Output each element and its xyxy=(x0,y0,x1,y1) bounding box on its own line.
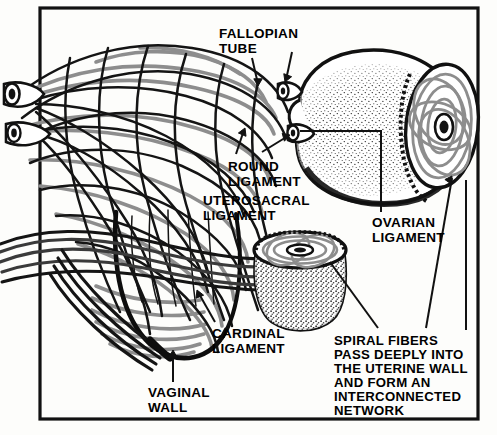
label-round-ligament: ROUND LIGAMENT xyxy=(228,160,301,189)
leader-cardinal xyxy=(196,290,215,322)
leader-fallopian-right xyxy=(284,52,292,82)
label-spiral-fibers-note: SPIRAL FIBERS PASS DEEPLY INTO THE UTERI… xyxy=(334,334,468,418)
label-fallopian-tube: FALLOPIAN TUBE xyxy=(219,27,298,56)
label-cardinal-ligament: CARDINAL LIGAMENT xyxy=(212,327,285,356)
label-vaginal-wall: VAGINAL WALL xyxy=(148,386,210,415)
leader-vaginal xyxy=(169,350,177,382)
leader-round-right xyxy=(262,133,290,152)
leader-spiral-to-uterus xyxy=(426,178,466,330)
figure-canvas: FALLOPIAN TUBE ROUND LIGAMENT UTEROSACRA… xyxy=(0,0,497,435)
stippled-uterus xyxy=(278,50,489,204)
label-ovarian-ligament: OVARIAN LIGAMENT xyxy=(372,216,445,245)
cervix-cone xyxy=(254,227,346,330)
label-uterosacral-ligament: UTEROSACRAL LIGAMENT xyxy=(203,194,310,223)
